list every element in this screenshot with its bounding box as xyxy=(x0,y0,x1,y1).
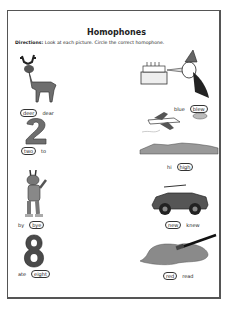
word-option-knew[interactable]: knew xyxy=(184,222,201,228)
waving-rabbit-icon xyxy=(22,170,52,220)
directions-text: Look at each picture. Circle the correct… xyxy=(43,40,164,45)
number-eight-icon xyxy=(22,234,46,268)
red-paint-spill-icon xyxy=(138,233,218,268)
worksheet-title: Homophones xyxy=(0,28,233,37)
deer-icon xyxy=(16,52,61,107)
party-dog-blowing-horn-at-cake-icon xyxy=(137,50,217,105)
answer-row-3: two to xyxy=(21,147,48,155)
word-option-read[interactable]: read xyxy=(180,273,195,279)
answer-row-4: hi high xyxy=(165,163,193,171)
answer-row-6: new knew xyxy=(165,221,202,229)
word-option-by[interactable]: by xyxy=(16,222,26,228)
directions: Directions: Look at each picture. Circle… xyxy=(15,40,164,45)
word-option-eight[interactable]: eight xyxy=(31,270,50,278)
answer-row-8: red read xyxy=(163,272,195,280)
word-option-high[interactable]: high xyxy=(177,163,194,171)
answer-row-5: by bye xyxy=(16,221,44,229)
word-option-red[interactable]: red xyxy=(163,272,177,280)
new-car-icon xyxy=(150,183,210,218)
directions-label: Directions: xyxy=(15,40,43,45)
airplane-over-town-icon xyxy=(140,110,220,160)
word-option-new[interactable]: new xyxy=(165,221,181,229)
word-option-two[interactable]: two xyxy=(21,147,36,155)
word-option-ate[interactable]: ate xyxy=(16,271,28,277)
word-option-to[interactable]: to xyxy=(39,148,48,154)
number-two-icon xyxy=(24,115,48,145)
word-option-bye[interactable]: bye xyxy=(29,221,44,229)
word-option-hi[interactable]: hi xyxy=(165,164,174,170)
answer-row-7: ate eight xyxy=(16,270,50,278)
